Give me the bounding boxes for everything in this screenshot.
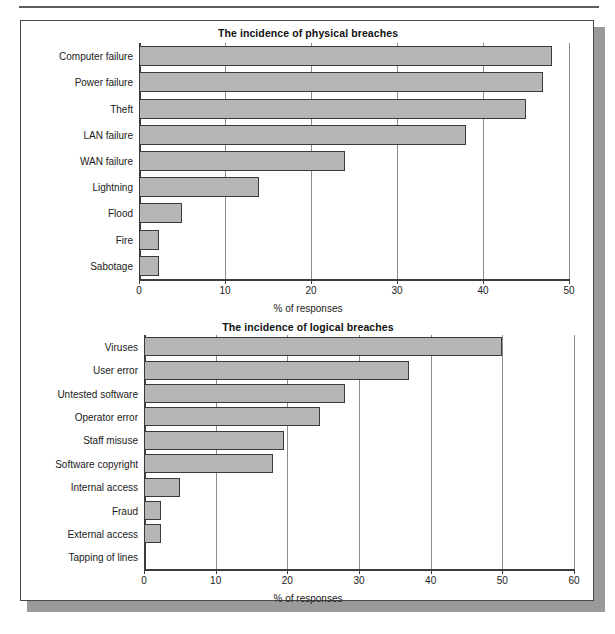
bar [144,384,345,403]
category-label: Untested software [21,388,138,399]
x-axis-tick [569,279,570,284]
bar [144,454,273,473]
chart-logical-x-axis-title: % of responses [21,593,595,604]
category-label: Power failure [21,77,133,88]
gridline [569,43,570,279]
bar [144,407,320,426]
x-axis-tick-label: 40 [425,575,436,586]
x-axis-tick-label: 0 [141,575,147,586]
category-label: Viruses [21,341,138,352]
bar [144,501,161,520]
x-axis-tick-label: 30 [353,575,364,586]
bar [144,361,409,380]
x-axis-tick-label: 20 [305,285,316,296]
bar [139,125,466,145]
bar [144,524,161,543]
bar [144,478,180,497]
figure-page: The incidence of physical breaches 01020… [0,0,615,634]
bar [139,177,259,197]
bar [139,256,159,276]
x-axis-tick-label: 60 [568,575,579,586]
bar [139,151,345,171]
x-axis-tick-label: 50 [497,575,508,586]
bar [144,431,284,450]
gridline [431,335,432,569]
figure-frame: The incidence of physical breaches 01020… [20,20,594,601]
category-label: Software copyright [21,458,138,469]
x-axis-line [139,279,569,281]
page-top-rule [19,6,599,8]
category-label: Operator error [21,411,138,422]
x-axis-tick [574,569,575,574]
gridline [502,335,503,569]
category-label: Internal access [21,482,138,493]
gridline [574,335,575,569]
category-label: Flood [21,208,133,219]
x-axis-tick-label: 30 [391,285,402,296]
x-axis-tick-label: 0 [136,285,142,296]
category-label: WAN failure [21,156,133,167]
bar [139,72,543,92]
x-axis-line [144,569,574,571]
category-label: Computer failure [21,51,133,62]
bar [139,46,552,66]
chart-logical-breaches: The incidence of logical breaches 010203… [21,317,595,602]
chart-physical-x-axis-title: % of responses [21,303,595,314]
bar [139,99,526,119]
chart-logical-plot-area: 0102030405060VirusesUser errorUntested s… [21,317,595,602]
category-label: Lightning [21,182,133,193]
x-axis-tick-label: 50 [563,285,574,296]
category-label: External access [21,528,138,539]
category-label: LAN failure [21,129,133,140]
bar [144,337,502,356]
category-label: Staff misuse [21,435,138,446]
chart-physical-plot-area: 01020304050Computer failurePower failure… [21,21,595,317]
category-label: Fire [21,234,133,245]
x-axis-tick-label: 10 [210,575,221,586]
category-label: Sabotage [21,260,133,271]
chart-physical-breaches: The incidence of physical breaches 01020… [21,21,595,317]
bar [139,230,159,250]
category-label: Fraud [21,505,138,516]
bar [139,203,182,223]
category-label: User error [21,365,138,376]
category-label: Tapping of lines [21,552,138,563]
x-axis-tick-label: 40 [477,285,488,296]
x-axis-tick-label: 20 [282,575,293,586]
x-axis-tick-label: 10 [219,285,230,296]
category-label: Theft [21,103,133,114]
